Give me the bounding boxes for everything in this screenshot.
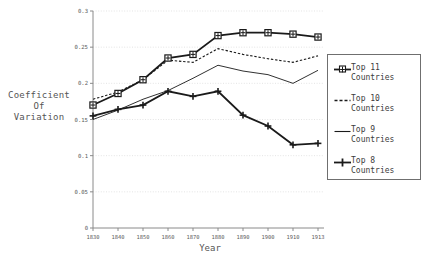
svg-text:0.15: 0.15 xyxy=(75,117,88,123)
svg-text:0: 0 xyxy=(85,225,88,231)
legend-marker-dashed-line-icon xyxy=(334,95,351,106)
legend-label-top-10: Top 10Countries xyxy=(351,94,394,114)
x-axis-ticks: 1830184018501860187018801890190019101913 xyxy=(87,228,325,240)
legend: Top 11Countries Top 10Countries Top 9Cou… xyxy=(327,54,421,180)
legend-label-top-11: Top 11Countries xyxy=(351,63,394,83)
svg-text:1910: 1910 xyxy=(287,234,300,240)
svg-text:1870: 1870 xyxy=(187,234,200,240)
svg-text:0.25: 0.25 xyxy=(75,44,88,50)
y-axis-title-line-2: Of xyxy=(2,101,76,112)
svg-text:0.1: 0.1 xyxy=(78,153,88,159)
svg-text:0.3: 0.3 xyxy=(78,8,88,14)
y-axis-title-line-1: Coefficient xyxy=(2,90,76,101)
svg-text:0.2: 0.2 xyxy=(78,80,88,86)
svg-text:1860: 1860 xyxy=(162,234,175,240)
legend-label-top-9: Top 9Countries xyxy=(351,125,394,145)
legend-item-top-10[interactable]: Top 10Countries xyxy=(334,94,418,114)
svg-text:1913: 1913 xyxy=(312,234,325,240)
legend-marker-square-plus-icon xyxy=(334,64,351,75)
legend-marker-plus-icon xyxy=(334,157,351,168)
legend-label-top-8: Top 8Countries xyxy=(351,156,394,176)
legend-item-top-8[interactable]: Top 8Countries xyxy=(334,156,418,176)
svg-text:1890: 1890 xyxy=(237,234,250,240)
legend-marker-solid-line-icon xyxy=(334,126,351,137)
svg-text:0.05: 0.05 xyxy=(75,189,88,195)
chart-container: Coefficient Of Variation 00.050.10.150.2… xyxy=(0,0,426,264)
svg-text:1850: 1850 xyxy=(137,234,150,240)
legend-item-top-11[interactable]: Top 11Countries xyxy=(334,63,418,83)
svg-text:1900: 1900 xyxy=(262,234,275,240)
svg-text:1880: 1880 xyxy=(212,234,225,240)
y-axis-title: Coefficient Of Variation xyxy=(2,90,76,123)
svg-text:1830: 1830 xyxy=(87,234,100,240)
gridlines xyxy=(93,11,324,192)
y-axis-ticks: 00.050.10.150.20.250.3 xyxy=(75,8,93,231)
legend-item-top-9[interactable]: Top 9Countries xyxy=(334,125,418,145)
y-axis-title-line-3: Variation xyxy=(2,112,76,123)
x-axis-title: Year xyxy=(150,243,270,253)
svg-text:1840: 1840 xyxy=(112,234,125,240)
